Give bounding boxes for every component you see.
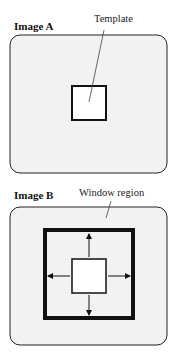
- template-box: [72, 86, 106, 120]
- image-b: [10, 201, 167, 345]
- diagram-canvas: [0, 0, 178, 356]
- image-a: [10, 30, 167, 173]
- template-box-b: [72, 259, 106, 293]
